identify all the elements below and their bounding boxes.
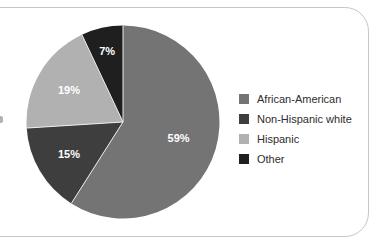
legend-label: Hispanic bbox=[257, 134, 299, 145]
edge-artifact bbox=[0, 116, 3, 123]
legend-label: Other bbox=[257, 154, 285, 165]
chart-legend: African-AmericanNon-Hispanic whiteHispan… bbox=[239, 89, 352, 169]
legend-swatch-non-hispanic-white bbox=[239, 114, 249, 124]
legend-swatch-other bbox=[239, 154, 249, 164]
pie-chart-container: 59%15%19%7% bbox=[26, 25, 220, 219]
legend-swatch-hispanic bbox=[239, 134, 249, 144]
legend-item-non-hispanic-white: Non-Hispanic white bbox=[239, 109, 352, 129]
pie-value-label-hispanic: 19% bbox=[58, 84, 80, 96]
pie-value-label-other: 7% bbox=[99, 45, 115, 57]
legend-label: African-American bbox=[257, 94, 341, 105]
pie-chart: 59%15%19%7% bbox=[26, 25, 220, 219]
legend-label: Non-Hispanic white bbox=[257, 114, 352, 125]
legend-swatch-african-american bbox=[239, 94, 249, 104]
legend-item-african-american: African-American bbox=[239, 89, 352, 109]
legend-item-other: Other bbox=[239, 149, 352, 169]
legend-item-hispanic: Hispanic bbox=[239, 129, 352, 149]
pie-value-label-non-hispanic-white: 15% bbox=[58, 148, 80, 160]
pie-value-label-african-american: 59% bbox=[168, 132, 190, 144]
